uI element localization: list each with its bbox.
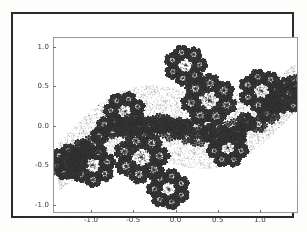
y-tick-label: 1.0 bbox=[21, 43, 49, 51]
x-tick-mark bbox=[91, 210, 92, 213]
y-tick-label: -1.0 bbox=[21, 201, 49, 209]
y-tick-label: -0.5 bbox=[21, 161, 49, 169]
y-tick-mark bbox=[53, 47, 56, 48]
y-tick-mark bbox=[53, 165, 56, 166]
x-tick-mark bbox=[133, 210, 134, 213]
y-tick-label: 0.0 bbox=[21, 122, 49, 130]
x-tick-label: 1.0 bbox=[254, 216, 265, 224]
y-tick-label: 0.5 bbox=[21, 82, 49, 90]
y-tick-mark bbox=[53, 126, 56, 127]
y-tick-mark bbox=[53, 205, 56, 206]
x-tick-mark bbox=[176, 210, 177, 213]
x-tick-label: 0.0 bbox=[170, 216, 181, 224]
y-tick-mark bbox=[53, 86, 56, 87]
figure-root: -1.0-0.50.00.51.0-1.0-0.50.00.51.0 bbox=[0, 0, 307, 232]
x-tick-mark bbox=[260, 210, 261, 213]
x-tick-label: 0.5 bbox=[212, 216, 223, 224]
x-tick-mark bbox=[218, 210, 219, 213]
figure-outer-border: -1.0-0.50.00.51.0-1.0-0.50.00.51.0 bbox=[11, 12, 294, 218]
fractal-scatter-plot bbox=[54, 38, 298, 213]
x-tick-label: -1.0 bbox=[84, 216, 98, 224]
plot-axes-frame bbox=[53, 37, 298, 213]
x-tick-label: -0.5 bbox=[126, 216, 140, 224]
